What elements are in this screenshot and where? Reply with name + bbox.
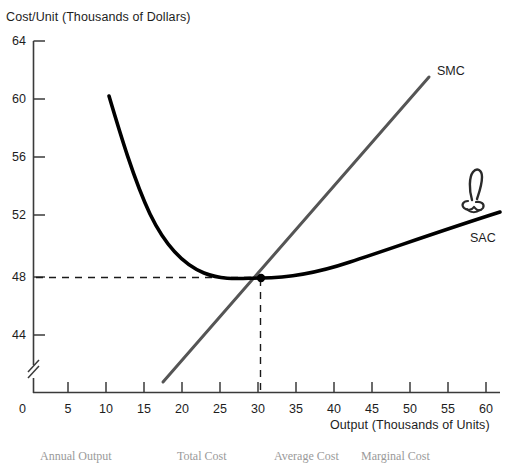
plot-area — [0, 0, 509, 463]
cost-curve-chart: Cost/Unit (Thousands of Dollars) 64 60 5… — [0, 0, 509, 463]
footer-column-total-cost: Total Cost — [177, 449, 227, 463]
footer-column-average-cost: Average Cost — [274, 449, 339, 463]
x-axis-ticks — [68, 382, 486, 393]
handwritten-scribble-annotation — [463, 170, 484, 213]
smc-curve — [163, 77, 429, 382]
footer-column-annual-output: Annual Output — [40, 449, 112, 463]
sac-curve-label: SAC — [470, 231, 496, 245]
footer-column-marginal-cost: Marginal Cost — [361, 449, 430, 463]
x-axis-title: Output (Thousands of Units) — [330, 418, 490, 432]
y-axis-ticks — [34, 41, 46, 335]
equilibrium-point-marker — [257, 274, 265, 282]
smc-curve-label: SMC — [437, 64, 465, 78]
sac-curve — [109, 96, 500, 279]
footer-table-headers: Annual Output Total Cost Average Cost Ma… — [0, 449, 509, 463]
